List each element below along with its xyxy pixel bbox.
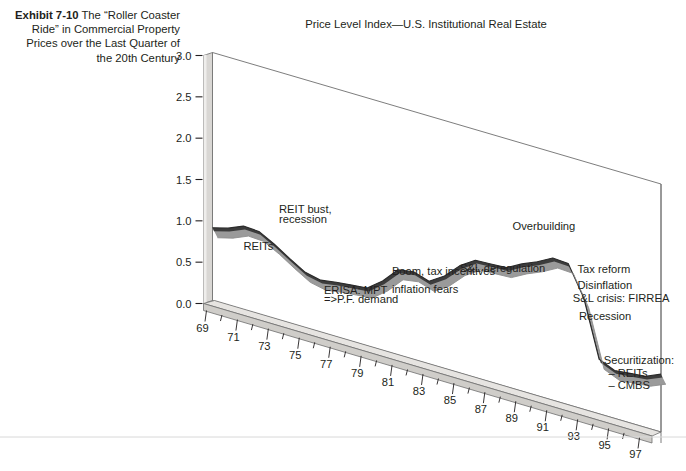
chart-annotation: S&L deregulation	[460, 262, 545, 274]
price-level-index-chart: 0.00.51.01.52.02.53.0 697173757779818385…	[0, 0, 686, 471]
y-axis: 0.00.51.01.52.02.53.0	[176, 50, 203, 310]
chart-annotation: Tax reform	[578, 263, 631, 275]
chart-annotation: =>P.F. demand	[324, 293, 398, 305]
chart-annotation: Overbuilding	[513, 220, 576, 232]
x-tick-label: 81	[382, 376, 394, 388]
x-tick-label: 77	[320, 358, 332, 370]
y-tick-label: 2.0	[176, 132, 192, 144]
chart-annotation: Disinflation	[578, 279, 633, 291]
chart-annotation: inflation fears	[392, 283, 459, 295]
x-tick-label: 97	[629, 448, 641, 460]
y-tick-label: 3.0	[176, 50, 192, 62]
y-tick-label: 0.0	[176, 298, 192, 310]
x-tick-label: 83	[413, 385, 425, 397]
y-tick-label: 0.5	[176, 256, 192, 268]
x-tick-label: 69	[196, 322, 208, 334]
x-tick-label: 95	[598, 439, 610, 451]
chart-annotation: REITs	[243, 240, 273, 252]
chart-annotation: Securitization:	[604, 354, 674, 366]
x-tick-label: 93	[567, 430, 579, 442]
x-tick-label: 73	[258, 340, 270, 352]
chart-annotation: – CMBS	[608, 379, 650, 391]
x-tick-label: 71	[227, 331, 239, 343]
y-tick-label: 1.5	[176, 174, 192, 186]
x-tick-label: 75	[289, 349, 301, 361]
x-tick-label: 85	[444, 394, 456, 406]
x-tick-label: 89	[506, 412, 518, 424]
x-tick-label: 91	[537, 421, 549, 433]
chart-annotation: – REITs	[608, 367, 648, 379]
chart-annotation: recession	[279, 213, 327, 225]
chart-plot-area: 0.00.51.01.52.02.53.0 697173757779818385…	[0, 0, 686, 471]
chart-annotation: S&L crisis: FIRREA	[573, 292, 670, 304]
y-tick-label: 1.0	[176, 215, 192, 227]
x-tick-label: 87	[475, 403, 487, 415]
x-tick-label: 79	[351, 367, 363, 379]
y-tick-label: 2.5	[176, 91, 192, 103]
chart-annotation: Recession	[579, 310, 631, 322]
